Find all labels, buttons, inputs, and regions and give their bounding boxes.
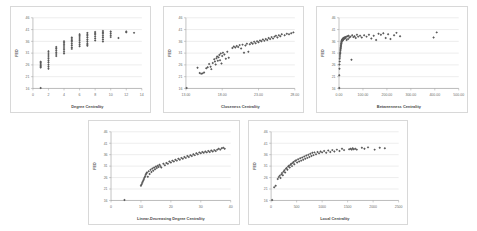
y-tick-label: 21 xyxy=(332,75,336,79)
y-tick-label: 31 xyxy=(104,164,108,168)
scatter-chart-3: 464136312621160.00100.00200.00300.00400.… xyxy=(317,7,467,112)
data-point xyxy=(361,147,363,149)
y-tick-label: 41 xyxy=(26,28,30,32)
data-point xyxy=(384,37,386,39)
data-point xyxy=(338,74,340,76)
data-point xyxy=(377,33,379,35)
data-point xyxy=(384,147,386,149)
data-point xyxy=(351,34,353,36)
y-tick-label: 16 xyxy=(104,199,108,203)
data-point xyxy=(71,36,73,38)
data-point xyxy=(355,37,357,39)
x-tick-label: 300.00 xyxy=(405,93,416,97)
chart-panel-5: 4641363126211605001000150020002500Local … xyxy=(248,120,408,225)
y-tick-label: 31 xyxy=(332,51,336,55)
data-point xyxy=(63,40,65,42)
x-tick-label: 500.00 xyxy=(453,93,464,97)
data-point xyxy=(333,150,335,152)
data-point xyxy=(343,149,345,151)
data-point xyxy=(373,148,375,150)
data-point xyxy=(382,32,384,34)
data-point xyxy=(228,57,230,59)
data-point xyxy=(281,33,283,35)
data-point xyxy=(380,34,382,36)
data-point xyxy=(94,31,96,33)
y-axis-title: FED xyxy=(15,49,19,57)
x-tick-label: 40 xyxy=(229,205,233,209)
data-point xyxy=(221,55,223,57)
y-tick-label: 21 xyxy=(104,187,108,191)
y-tick-label: 16 xyxy=(264,199,268,203)
data-point xyxy=(399,35,401,37)
x-axis-title: Degree Centrality xyxy=(71,104,104,109)
data-point xyxy=(219,59,221,61)
x-tick-label: 0 xyxy=(270,205,272,209)
data-point xyxy=(86,32,88,34)
x-tick-label: 100.00 xyxy=(358,93,369,97)
data-point xyxy=(117,37,119,39)
data-point xyxy=(338,87,340,89)
y-tick-label: 16 xyxy=(26,87,30,91)
y-tick-label: 31 xyxy=(26,51,30,55)
data-point xyxy=(214,63,216,65)
y-axis-title: FED xyxy=(321,49,325,57)
y-tick-label: 46 xyxy=(26,16,30,20)
x-axis-title: Linear-Decreasing Degree Centrality xyxy=(137,216,205,221)
data-point xyxy=(78,45,80,47)
data-point xyxy=(283,34,285,36)
x-tick-label: 28.00 xyxy=(290,93,299,97)
data-point xyxy=(350,58,352,60)
x-tick-label: 23.00 xyxy=(254,93,263,97)
y-tick-label: 41 xyxy=(264,142,268,146)
x-tick-label: 14 xyxy=(140,93,144,97)
y-tick-label: 26 xyxy=(104,176,108,180)
y-tick-label: 36 xyxy=(179,40,183,44)
data-point xyxy=(213,58,215,60)
y-tick-label: 36 xyxy=(26,40,30,44)
chart-panel-4: 46413631262116010203040Linear-Decreasing… xyxy=(88,120,240,225)
data-point xyxy=(373,34,375,36)
data-point xyxy=(292,31,294,33)
x-axis-title: Local Centrality xyxy=(320,216,350,221)
x-tick-label: 200.00 xyxy=(382,93,393,97)
data-point xyxy=(329,151,331,153)
y-tick-label: 26 xyxy=(179,63,183,67)
y-tick-label: 46 xyxy=(104,130,108,134)
data-point xyxy=(315,153,317,155)
data-point xyxy=(47,67,49,69)
y-tick-label: 21 xyxy=(264,187,268,191)
data-point xyxy=(296,161,298,163)
data-point xyxy=(393,34,395,36)
data-point xyxy=(212,62,214,64)
data-point xyxy=(102,30,104,32)
data-point xyxy=(240,47,242,49)
x-tick-label: 8 xyxy=(94,93,96,97)
scatter-chart-5: 4641363126211605001000150020002500Local … xyxy=(249,121,407,224)
data-point xyxy=(102,40,104,42)
y-tick-label: 16 xyxy=(332,87,336,91)
data-point xyxy=(244,44,246,46)
y-tick-label: 36 xyxy=(332,40,336,44)
data-point xyxy=(432,36,434,38)
x-tick-label: 0 xyxy=(110,205,112,209)
x-tick-label: 6 xyxy=(79,93,81,97)
data-point xyxy=(276,36,278,38)
x-tick-label: 2500 xyxy=(395,205,403,209)
data-point xyxy=(307,153,309,155)
y-tick-label: 26 xyxy=(26,63,30,67)
data-point xyxy=(214,60,216,62)
data-point xyxy=(298,160,300,162)
data-point xyxy=(222,51,224,53)
data-point xyxy=(152,169,154,171)
x-tick-label: 2 xyxy=(47,93,49,97)
data-point xyxy=(300,159,302,161)
data-point xyxy=(238,44,240,46)
data-point xyxy=(308,156,310,158)
data-point xyxy=(148,170,150,172)
data-point xyxy=(286,33,288,35)
x-tick-label: 4 xyxy=(63,93,65,97)
data-point xyxy=(297,158,299,160)
y-tick-label: 21 xyxy=(179,75,183,79)
y-tick-label: 26 xyxy=(264,176,268,180)
data-point xyxy=(78,33,80,35)
